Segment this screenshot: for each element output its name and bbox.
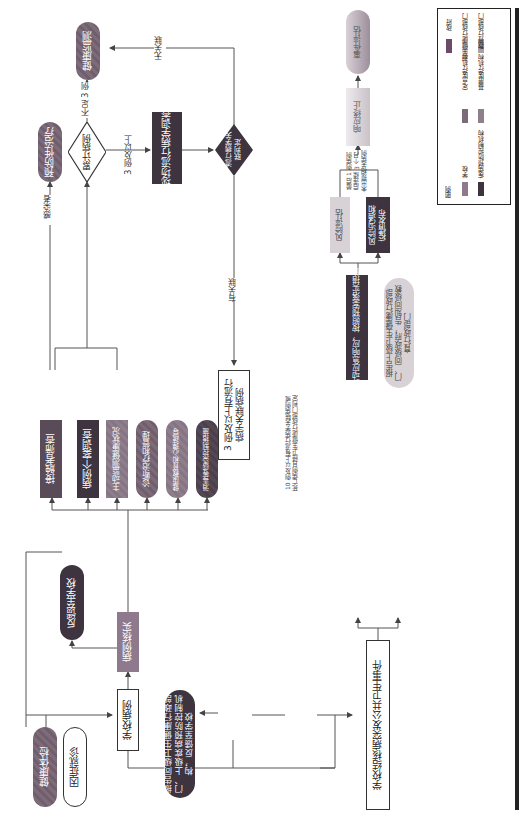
feedback-school-label: 反馈至学校: [66, 578, 79, 628]
legend-label-government: 政府: [445, 19, 453, 31]
action-diagnosis-treatment: 诊断治疗和管理: [136, 420, 158, 498]
event-evaluation-label: 事件评估: [353, 26, 363, 58]
legend-swatch-designated-hospital: [462, 109, 468, 123]
report-same-level-label: 报告同级卫生健康行政部门、上级疾病预防控制机构，反馈至学校: [164, 694, 196, 794]
not-related-edge-label: 无关联: [154, 36, 166, 62]
legend-swatch-school: [462, 182, 468, 196]
risk-assessment-node: 风险评估: [330, 197, 350, 253]
action-label: 病例个案调查: [82, 429, 95, 489]
report-upper-label: 报告上级卫生健康行政部门、同级政府，告知同级教育行政部门: [385, 283, 413, 383]
case-verification-node: 病例核实: [117, 612, 139, 672]
termination-condition-label: 最后 1 例病例后连续 3 个月未出现相关病例: [345, 150, 375, 194]
response-termination-label: 响应终止: [353, 101, 363, 133]
public-health-event-label: 学校结核病突发公共卫生事件: [372, 660, 385, 790]
action-health-education: 健康教育和心理疏导: [166, 420, 188, 498]
cumulative-cases-label: 累计病例: [81, 134, 92, 170]
case-verification-label: 病例核实: [122, 622, 135, 662]
start-emergency-label: 启动应急响应，按照预案落实措施: [352, 268, 362, 388]
report-upper-node: 报告上级卫生健康行政部门、同级政府，告知同级教育行政部门: [384, 278, 414, 388]
school-case-label: 学校病例: [122, 700, 135, 740]
school-case-node: 学校病例: [117, 689, 139, 751]
symptom-visit-label: 因症就诊: [69, 747, 82, 787]
legend-swatch-cdc: [478, 182, 484, 196]
health-checkup-label: 健康体检: [39, 747, 52, 787]
legend-label-primary-care: 基层医疗机构: [477, 54, 485, 90]
three-or-more-edge-label: 3 例及以上: [124, 135, 136, 165]
risk-communication-node: 风险沟通和疫情发布: [366, 197, 390, 253]
legend-label-health-admin: 卫生健康行政部门: [461, 13, 469, 61]
preventive-treatment-node: 预防性治疗: [38, 122, 62, 182]
three-linked-cases-node: 3 例及以上有流行病学关联病例: [218, 370, 250, 460]
action-label: 消毒等感染控制措施: [203, 428, 211, 491]
epi-judgment-decision: 流行病学关联判定: [215, 124, 253, 176]
epi-judgment-label: 流行病学关联判定: [225, 132, 243, 168]
symptom-visit-node: 因症就诊: [63, 727, 87, 807]
legend-swatch-government: [446, 39, 452, 53]
feedback-school-node: 反馈至学校: [60, 565, 84, 640]
ten-or-more-edge-label: 10 例及以上有流行病学关联病例或死亡病例且经卫生健康行政部门判定: [284, 395, 316, 495]
action-disinfection: 消毒等感染控制措施: [196, 420, 218, 498]
start-emergency-node: 启动应急响应，按照预案落实措施: [346, 275, 368, 380]
legend-swatch-primary-care: [478, 109, 484, 123]
legend-label-school: 学校: [461, 166, 469, 178]
legend: 图例 学校 疾病预防控制机构 定点医疗机构 基层医疗机构 政府 卫生健康行政部门…: [437, 8, 511, 205]
related-edge-label: 有关联: [228, 278, 240, 300]
action-case-investigation: 病例个案调查: [77, 420, 99, 498]
field-investigation-node: 现场流行病学调查: [152, 112, 182, 184]
health-monitoring-node: 健康监测: [76, 22, 100, 80]
less-than-3-edge-label: 不足 3 例: [81, 82, 93, 118]
page-edge-bar: [515, 8, 519, 810]
response-termination-node: 响应终止: [346, 88, 370, 146]
field-investigation-label: 现场流行病学调查: [161, 108, 174, 188]
risk-communication-label: 风险沟通和疫情发布: [368, 203, 388, 247]
action-contact-screening: 接触者筛查: [40, 420, 62, 498]
event-evaluation-node: 事件评估: [346, 10, 370, 74]
legend-title: 图例: [444, 186, 452, 198]
report-same-level-node: 报告同级卫生健康行政部门、上级疾病预防控制机构，反馈至学校: [165, 690, 195, 798]
public-health-event-node: 学校结核病突发公共卫生事件: [366, 640, 390, 810]
health-checkup-node: 健康体检: [33, 727, 57, 807]
action-label: 接触者筛查: [45, 434, 58, 484]
preventive-treatment-label: 预防性治疗: [44, 127, 57, 177]
three-linked-cases-label: 3 例及以上有流行病学关联病例: [223, 375, 246, 455]
action-label: 健康教育和心理疏导: [173, 428, 181, 491]
legend-label-education-admin: 教育行政部门: [477, 13, 485, 49]
health-monitoring-label: 健康监测: [82, 31, 95, 71]
action-label: 诊断治疗和管理: [142, 431, 152, 487]
infected-edge-label: 感染者: [43, 195, 57, 225]
cumulative-cases-decision: 累计病例: [68, 122, 106, 182]
risk-assessment-label: 风险评估: [335, 209, 345, 241]
legend-label-cdc: 疾病预防控制机构: [477, 130, 485, 178]
action-active-monitoring: 主动监测健康状况: [106, 420, 128, 498]
action-label: 主动监测健康状况: [112, 427, 122, 491]
